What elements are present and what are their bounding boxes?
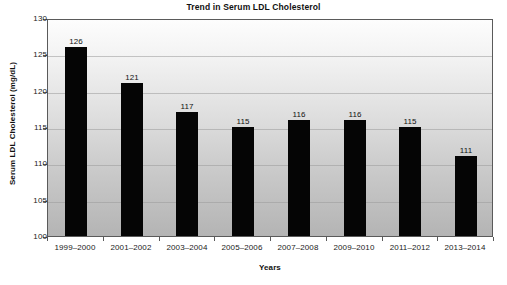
bar[interactable] xyxy=(176,112,198,236)
x-axis-tick-label: 2001–2002 xyxy=(103,243,159,252)
chart-title: Trend in Serum LDL Cholesterol xyxy=(0,2,507,12)
x-axis-tick-label: 2003–2004 xyxy=(159,243,215,252)
x-axis-tick xyxy=(326,237,327,241)
gridline xyxy=(48,165,492,166)
bar-value-label: 116 xyxy=(279,110,319,119)
x-axis-tick xyxy=(437,237,438,241)
bar[interactable] xyxy=(232,127,254,236)
y-axis-tick-label: 130 xyxy=(21,14,47,23)
x-axis-tick-label: 2011–2012 xyxy=(382,243,438,252)
y-axis-tick-label: 125 xyxy=(21,50,47,59)
bar-value-label: 121 xyxy=(112,73,152,82)
bar-value-label: 116 xyxy=(335,110,375,119)
y-axis-tick-label: 110 xyxy=(21,159,47,168)
bar-value-label: 115 xyxy=(223,117,263,126)
bar-value-label: 117 xyxy=(167,102,207,111)
bar-value-label: 115 xyxy=(390,117,430,126)
gridline xyxy=(48,93,492,94)
x-axis-tick xyxy=(103,237,104,241)
x-axis-tick xyxy=(493,237,494,241)
bar[interactable] xyxy=(455,156,477,236)
bar[interactable] xyxy=(399,127,421,236)
x-axis-tick xyxy=(214,237,215,241)
gridline xyxy=(48,56,492,57)
plot-area: 126121117115116116115111 xyxy=(47,19,493,237)
gridline xyxy=(48,129,492,130)
bar[interactable] xyxy=(121,83,143,236)
y-axis-tick-label: 120 xyxy=(21,87,47,96)
x-axis-tick xyxy=(159,237,160,241)
y-axis: 100105110115120125130 xyxy=(0,0,47,285)
x-axis-tick xyxy=(270,237,271,241)
y-axis-tick-label: 115 xyxy=(21,123,47,132)
x-axis-tick-label: 2009–2010 xyxy=(326,243,382,252)
y-axis-tick-label: 105 xyxy=(21,196,47,205)
x-axis-title: Years xyxy=(47,263,493,272)
bar[interactable] xyxy=(344,120,366,236)
x-axis-tick-label: 1999–2000 xyxy=(47,243,103,252)
x-axis-tick xyxy=(382,237,383,241)
bar-value-label: 111 xyxy=(446,146,486,155)
y-axis-tick-label: 100 xyxy=(21,232,47,241)
bar[interactable] xyxy=(65,47,87,236)
gridline xyxy=(48,202,492,203)
x-axis-tick xyxy=(47,237,48,241)
x-axis-tick-label: 2007–2008 xyxy=(270,243,326,252)
bar-value-label: 126 xyxy=(56,37,96,46)
bar[interactable] xyxy=(288,120,310,236)
x-axis-tick-label: 2005–2006 xyxy=(214,243,270,252)
chart-container: Trend in Serum LDL Cholesterol Serum LDL… xyxy=(0,0,507,285)
x-axis-tick-label: 2013–2014 xyxy=(437,243,493,252)
